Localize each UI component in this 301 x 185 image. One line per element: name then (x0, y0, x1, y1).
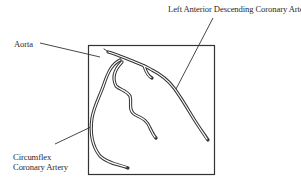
circumflex-label-line2: Coronary Artery (13, 162, 68, 172)
aorta-label: Aorta (14, 39, 33, 49)
circumflex-label-line1: Circumflex (13, 152, 68, 162)
circumflex-leader-line (55, 126, 93, 144)
lad-label: Left Anterior Descending Coronary Artery… (168, 4, 301, 14)
circumflex-label: Circumflex Coronary Artery (13, 152, 68, 172)
coronary-diagram: Left Anterior Descending Coronary Artery… (0, 0, 301, 185)
lad-leader-line (176, 18, 213, 89)
vessels (91, 49, 208, 168)
angiogram-frame (89, 46, 215, 175)
lad-vessel (108, 52, 208, 140)
aortic-root-mark (104, 49, 108, 52)
